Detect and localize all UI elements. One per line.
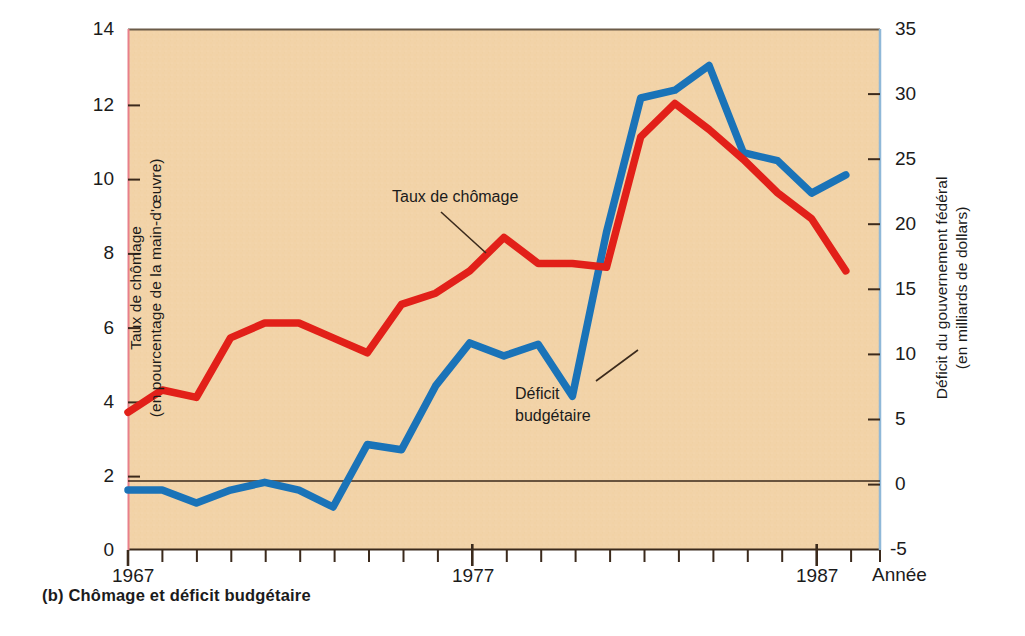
right-tick-label-15: 15 [895,278,916,300]
right-tick-label-minus5: -5 [890,538,907,560]
left-tick-label-2: 2 [66,465,114,487]
x-tick-label-1967: 1967 [112,565,154,587]
left-axis-title-line1: Taux de chômage [126,38,146,538]
right-axis-title: Déficit du gouvernement fédéral (en mill… [932,38,972,538]
right-tick-label-5: 5 [895,408,906,430]
right-tick-label-0: 0 [895,473,906,495]
right-tick-label-20: 20 [895,213,916,235]
left-tick-label-4: 4 [66,391,114,413]
left-tick-label-10: 10 [66,168,114,190]
x-tick-label-1977: 1977 [452,565,494,587]
unemployment-series-label: Taux de chômage [392,186,518,208]
left-tick-label-6: 6 [66,317,114,339]
x-axis-title: Année [872,564,927,586]
x-axis-ticks [162,550,880,562]
left-axis-title-line2: (en pourcentage de la main-d'œuvre) [146,38,166,538]
unemployment-series-label-text: Taux de chômage [392,186,518,208]
right-tick-label-10: 10 [895,343,916,365]
right-axis-title-line2: (en milliards de dollars) [952,38,972,538]
x-tick-label-1987: 1987 [796,565,838,587]
right-axis-title-line1: Déficit du gouvernement fédéral [932,38,952,538]
left-tick-label-0: 0 [66,539,114,561]
deficit-series-label: Déficit budgétaire [515,383,591,426]
figure-caption: (b) Chômage et déficit budgétaire [42,586,311,605]
left-tick-label-8: 8 [66,242,114,264]
right-tick-label-25: 25 [895,148,916,170]
left-axis-title: Taux de chômage (en pourcentage de la ma… [126,38,166,538]
right-tick-label-35: 35 [895,18,916,40]
left-tick-label-12: 12 [66,94,114,116]
deficit-series-label-line2: budgétaire [515,405,591,427]
left-tick-label-14: 14 [66,18,114,40]
plot-background [128,29,880,550]
right-tick-label-30: 30 [895,83,916,105]
deficit-series-label-line1: Déficit [515,383,591,405]
figure-unemployment-deficit: 14 12 10 8 6 4 2 0 35 30 25 20 15 10 5 0… [0,0,1025,636]
